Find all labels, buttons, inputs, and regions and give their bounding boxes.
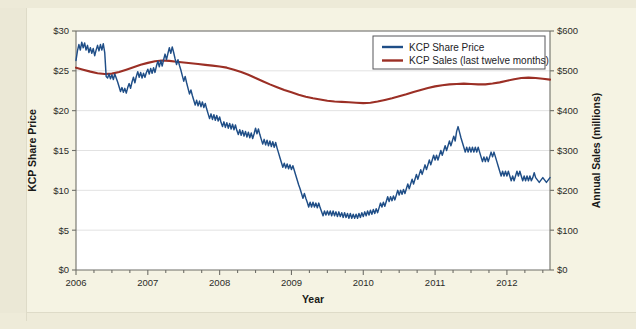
y2-tick-label: $500: [557, 65, 578, 76]
y2-axis-ticks: [550, 31, 554, 270]
y-axis-tick-labels: $0$5$10$15$20$25$30: [53, 25, 69, 275]
share-price-sales-chart: 2006200720082009201020112012 $0$5$10$15$…: [0, 0, 636, 329]
y2-tick-label: $300: [557, 145, 578, 156]
x-axis-tick-labels: 2006200720082009201020112012: [65, 277, 517, 288]
x-tick-label: 2012: [496, 277, 517, 288]
x-tick-label: 2007: [137, 277, 158, 288]
x-axis-ticks: [76, 270, 543, 275]
x-tick-label: 2008: [209, 277, 230, 288]
y-tick-label: $10: [53, 185, 69, 196]
x-tick-label: 2006: [65, 277, 86, 288]
legend-label-share-price: KCP Share Price: [409, 42, 485, 53]
y-tick-label: $0: [58, 264, 69, 275]
x-axis-title: Year: [302, 293, 324, 305]
y2-tick-label: $0: [557, 264, 568, 275]
scanned-page: 2006200720082009201020112012 $0$5$10$15$…: [0, 0, 636, 329]
y2-tick-label: $100: [557, 225, 578, 236]
x-tick-label: 2011: [425, 277, 445, 288]
y-tick-label: $25: [53, 65, 69, 76]
y-tick-label: $30: [53, 25, 69, 36]
chart-legend: KCP Share Price KCP Sales (last twelve m…: [373, 36, 549, 69]
y2-tick-label: $400: [557, 105, 578, 116]
y2-tick-label: $200: [557, 185, 578, 196]
y-tick-label: $15: [53, 145, 69, 156]
y-axis-title: KCP Share Price: [26, 109, 38, 192]
x-tick-label: 2009: [281, 277, 302, 288]
y2-tick-label: $600: [557, 25, 578, 36]
y-tick-label: $5: [58, 225, 69, 236]
x-tick-label: 2010: [353, 277, 374, 288]
y2-axis-tick-labels: $0$100$200$300$400$500$600: [557, 25, 578, 275]
y2-axis-title: Annual Sales (millions): [590, 93, 602, 209]
y-tick-label: $20: [53, 105, 69, 116]
legend-label-sales: KCP Sales (last twelve months): [409, 55, 549, 66]
